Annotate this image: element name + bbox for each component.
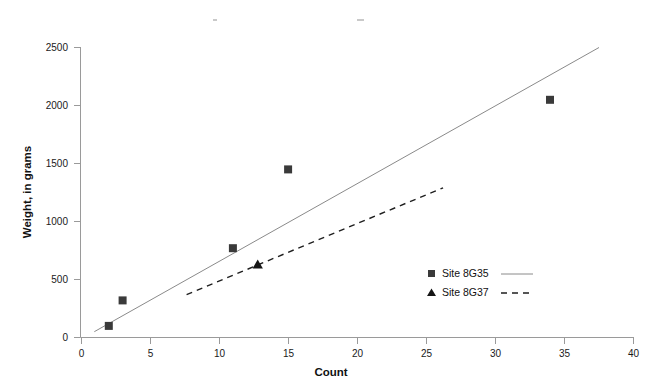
data-point-square <box>105 322 113 330</box>
legend-label-site-8g37: Site 8G37 <box>442 286 489 298</box>
data-point-square <box>284 165 292 173</box>
x-tick-label-30: 30 <box>490 348 502 359</box>
y-axis-title: Weight, in grams <box>21 146 33 238</box>
x-tick-label-5: 5 <box>148 348 154 359</box>
y-tick-label-1500: 1500 <box>46 158 69 169</box>
y-tick-label-2500: 2500 <box>46 42 69 53</box>
x-tick-label-35: 35 <box>559 348 571 359</box>
y-tick-label-2000: 2000 <box>46 100 69 111</box>
x-tick-label-25: 25 <box>421 348 433 359</box>
scan-speck <box>213 19 217 21</box>
data-point-square <box>119 296 127 304</box>
x-tick-label-40: 40 <box>628 348 640 359</box>
scan-speck <box>357 19 364 21</box>
data-point-square <box>546 96 554 104</box>
scatter-chart-figure: 2500 2000 1500 1000 500 0 0 5 10 15 20 2… <box>0 0 659 389</box>
x-tick-label-0: 0 <box>79 348 85 359</box>
y-tick-label-0: 0 <box>62 332 68 343</box>
x-tick-label-20: 20 <box>352 348 364 359</box>
data-point-square <box>229 244 237 252</box>
x-axis-title: Count <box>314 366 347 378</box>
chart-background <box>0 0 659 389</box>
y-tick-label-1000: 1000 <box>46 216 69 227</box>
chart-canvas: 2500 2000 1500 1000 500 0 0 5 10 15 20 2… <box>0 0 659 389</box>
x-tick-label-15: 15 <box>283 348 295 359</box>
legend-label-site-8g35: Site 8G35 <box>442 267 489 279</box>
x-tick-label-10: 10 <box>214 348 226 359</box>
y-tick-label-500: 500 <box>51 274 68 285</box>
square-marker-icon <box>428 270 435 277</box>
